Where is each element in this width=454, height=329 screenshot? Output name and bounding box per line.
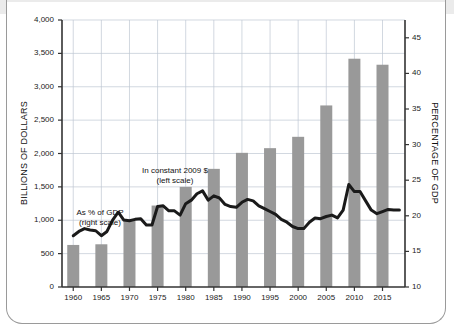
bar	[67, 245, 79, 287]
bar	[348, 59, 360, 287]
bar-annotation-line-2: (left scale)	[120, 176, 230, 186]
line-annotation-line-1: As % of GDP	[50, 208, 150, 218]
y-axis-right-tick-label: 40	[412, 68, 444, 77]
y-axis-left-tick-label: 2,000	[22, 149, 54, 158]
bar	[123, 220, 135, 287]
y-axis-right-tick-label: 45	[412, 33, 444, 42]
y-axis-left-tick-label: 0	[22, 282, 54, 291]
y-axis-left-tick-label: 500	[22, 249, 54, 258]
bar	[320, 105, 332, 287]
y-axis-right-tick-label: 30	[412, 140, 444, 149]
bar	[95, 244, 107, 287]
y-axis-left-tick-label: 1,000	[22, 215, 54, 224]
bar	[236, 153, 248, 287]
y-axis-right-tick-label: 25	[412, 175, 444, 184]
bar	[377, 65, 389, 287]
bar-annotation-line-1: In constant 2009 $	[120, 166, 230, 176]
y-axis-right-tick-label: 15	[412, 246, 444, 255]
y-axis-left-tick-label: 1,500	[22, 182, 54, 191]
y-axis-right-tick-label: 10	[412, 282, 444, 291]
y-axis-left-tick-label: 2,500	[22, 115, 54, 124]
plot-canvas	[0, 0, 454, 329]
y-axis-left-tick-label: 3,000	[22, 82, 54, 91]
line-series-annotation: As % of GDP (right scale)	[50, 208, 150, 228]
bar	[264, 148, 276, 287]
dual-axis-chart: BILLIONS OF DOLLARS PERCENTAGE OF GDP In…	[0, 0, 454, 329]
y-axis-right-tick-label: 20	[412, 211, 444, 220]
line-annotation-line-2: (right scale)	[50, 218, 150, 228]
y-axis-left-tick-label: 4,000	[22, 15, 54, 24]
bar	[292, 137, 304, 287]
y-axis-right-tick-label: 35	[412, 104, 444, 113]
x-axis-tick-label: 2015	[363, 293, 403, 302]
y-axis-left-tick-label: 3,500	[22, 48, 54, 57]
bar	[208, 169, 220, 287]
bar-series-annotation: In constant 2009 $ (left scale)	[120, 166, 230, 186]
